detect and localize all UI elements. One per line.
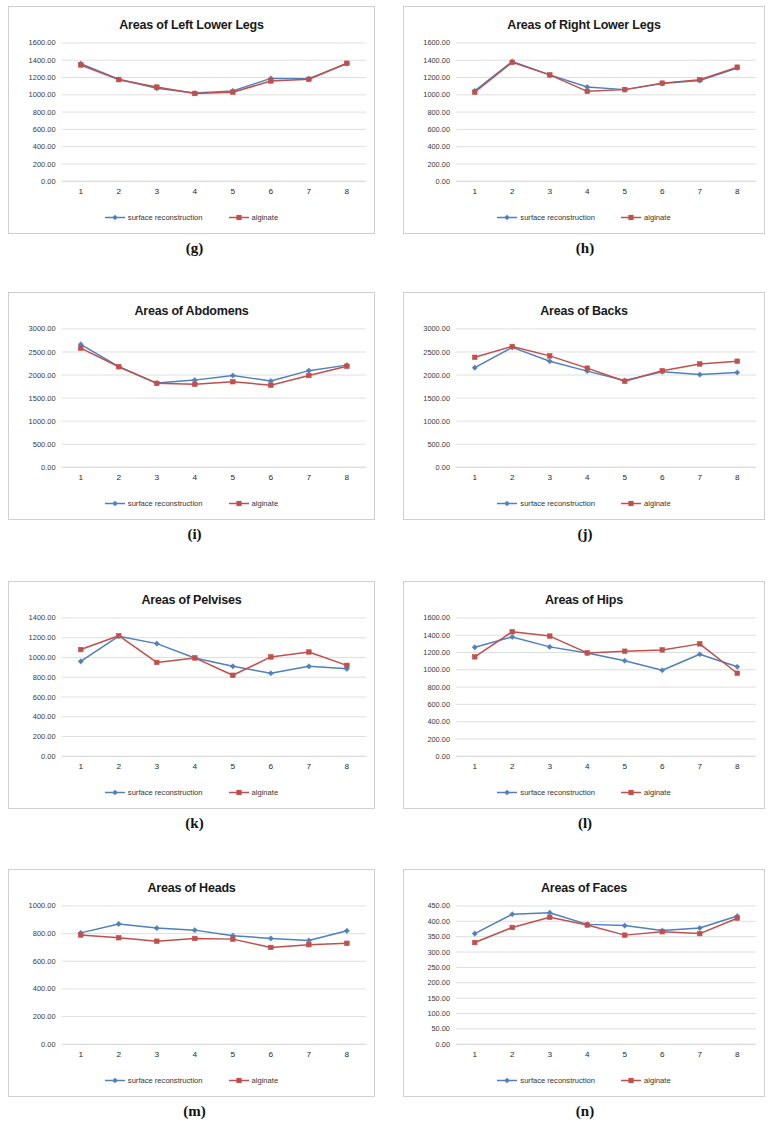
chart-title: Areas of Faces: [404, 870, 764, 897]
x-axis-tick-label: 5: [231, 187, 236, 196]
legend-item-surface-reconstruction: surface reconstruction: [497, 1076, 595, 1085]
data-point-square: [78, 63, 83, 68]
chart-legend: surface reconstructionalginate: [9, 784, 374, 800]
y-axis-tick-label: 2000.00: [29, 371, 56, 380]
y-axis-tick-label: 600.00: [427, 700, 450, 709]
x-axis-tick-label: 7: [697, 473, 702, 482]
data-point-diamond: [472, 645, 477, 650]
data-point-square: [116, 633, 121, 638]
data-point-square: [78, 346, 83, 351]
data-point-square: [230, 673, 235, 678]
plot-area: 0.00500.001000.001500.002000.002500.0030…: [9, 323, 374, 489]
series-line: [81, 636, 347, 673]
data-point-square: [697, 931, 702, 936]
chart-panel: Areas of Pelvises0.00200.00400.00600.008…: [8, 581, 375, 809]
y-axis-tick-label: 450.00: [427, 902, 450, 911]
y-axis-tick-label: 1600.00: [29, 39, 56, 48]
y-axis-tick-label: 1400.00: [423, 631, 450, 640]
legend-square-marker-icon: [621, 499, 641, 508]
plot-area: 0.0050.00100.00150.00200.00250.00300.003…: [404, 900, 764, 1066]
y-axis-tick-label: 500.00: [33, 440, 56, 449]
panel-cell-n: Areas of Faces0.0050.00100.00150.00200.0…: [389, 863, 775, 1139]
chart-title: Areas of Abdomens: [9, 293, 374, 320]
x-axis-tick-label: 3: [547, 1050, 552, 1059]
y-axis-tick-label: 1000.00: [423, 417, 450, 426]
figure-label: (m): [0, 1103, 389, 1120]
y-axis-tick-label: 200.00: [33, 160, 56, 169]
legend-square-marker-icon: [621, 788, 641, 797]
chart-panel: Areas of Backs0.00500.001000.001500.0020…: [403, 292, 765, 520]
legend-item-alginate: alginate: [229, 788, 279, 797]
y-axis-tick-label: 250.00: [427, 963, 450, 972]
data-point-square: [622, 649, 627, 654]
panel-cell-i: Areas of Abdomens0.00500.001000.001500.0…: [0, 286, 389, 575]
chart-title: Areas of Hips: [404, 582, 764, 609]
y-axis-tick-label: 800.00: [427, 108, 450, 117]
x-axis-tick-label: 5: [622, 1050, 627, 1059]
y-axis-tick-label: 800.00: [33, 108, 56, 117]
y-axis-tick-label: 2500.00: [29, 348, 56, 357]
data-point-diamond: [547, 644, 552, 649]
data-point-square: [192, 936, 197, 941]
x-axis-tick-label: 8: [735, 187, 740, 196]
data-point-diamond: [735, 370, 740, 375]
data-point-diamond: [306, 368, 311, 373]
x-axis-tick-label: 2: [510, 762, 515, 771]
x-axis-tick-label: 8: [735, 473, 740, 482]
y-axis-tick-label: 200.00: [427, 160, 450, 169]
chart-panel: Areas of Heads0.00200.00400.00600.00800.…: [8, 869, 375, 1097]
x-axis-tick-label: 1: [472, 762, 477, 771]
y-axis-tick-label: 0.00: [41, 177, 56, 186]
data-point-square: [307, 77, 312, 82]
data-point-square: [78, 647, 83, 652]
x-axis-tick-label: 3: [547, 187, 552, 196]
legend-item-alginate: alginate: [621, 788, 671, 797]
x-axis-tick-label: 1: [78, 187, 83, 196]
x-axis-tick-label: 6: [269, 187, 274, 196]
legend-diamond-marker-icon: [497, 788, 517, 797]
x-axis-tick-label: 7: [697, 762, 702, 771]
figure-label: (g): [0, 240, 389, 257]
data-point-diamond: [344, 928, 349, 933]
data-point-square: [116, 77, 121, 82]
figure-label: (h): [395, 240, 775, 257]
legend-label: surface reconstruction: [520, 499, 595, 508]
data-point-diamond: [697, 925, 702, 930]
data-point-square: [230, 379, 235, 384]
legend-diamond-marker-icon: [105, 213, 125, 222]
x-axis-tick-label: 2: [116, 473, 121, 482]
data-point-square: [547, 73, 552, 78]
plot-area: 0.00200.00400.00600.00800.001000.001200.…: [404, 37, 764, 203]
data-point-square: [269, 79, 274, 84]
data-point-square: [622, 379, 627, 384]
x-axis-tick-label: 7: [697, 1050, 702, 1059]
data-point-square: [307, 942, 312, 947]
y-axis-tick-label: 1600.00: [423, 39, 450, 48]
y-axis-tick-label: 600.00: [427, 125, 450, 134]
panel-cell-g: Areas of Left Lower Legs0.00200.00400.00…: [0, 0, 389, 286]
data-point-square: [547, 354, 552, 359]
x-axis-tick-label: 2: [510, 1050, 515, 1059]
y-axis-tick-label: 1200.00: [29, 73, 56, 82]
x-axis-tick-label: 1: [78, 1050, 83, 1059]
x-axis-tick-label: 3: [154, 187, 159, 196]
legend-label: alginate: [644, 788, 671, 797]
legend-item-alginate: alginate: [621, 1076, 671, 1085]
chart-legend: surface reconstructionalginate: [404, 495, 764, 511]
data-point-square: [307, 650, 312, 655]
legend-item-surface-reconstruction: surface reconstruction: [497, 213, 595, 222]
legend-diamond-marker-icon: [497, 213, 517, 222]
panel-cell-j: Areas of Backs0.00500.001000.001500.0020…: [389, 286, 775, 575]
x-axis-tick-label: 6: [269, 1050, 274, 1059]
data-point-square: [735, 359, 740, 364]
data-point-diamond: [230, 373, 235, 378]
data-point-square: [472, 90, 477, 95]
data-point-square: [116, 935, 121, 940]
y-axis-tick-label: 1500.00: [29, 394, 56, 403]
chart-legend: surface reconstructionalginate: [9, 495, 374, 511]
x-axis-tick-label: 4: [585, 762, 590, 771]
legend-label: alginate: [252, 499, 279, 508]
x-axis-tick-label: 7: [307, 762, 312, 771]
data-point-square: [78, 933, 83, 938]
legend-square-marker-icon: [621, 213, 641, 222]
